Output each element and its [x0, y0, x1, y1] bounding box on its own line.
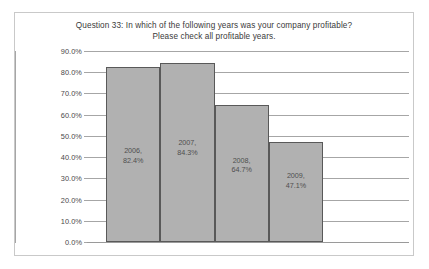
bar-label-2006: 2006, 82.4% — [107, 146, 159, 165]
bar-label-2007-category: 2007, — [161, 138, 213, 148]
chart-figure: Question 33: In which of the following y… — [0, 0, 429, 269]
y-axis-label-10: 10.0% — [61, 216, 82, 225]
y-axis-line — [15, 51, 16, 243]
y-tick-40 — [84, 157, 87, 158]
y-axis-label-0: 0.0% — [65, 238, 82, 247]
bar-label-2008-category: 2008, — [216, 156, 268, 166]
y-axis-label-90: 90.0% — [61, 47, 82, 56]
y-axis-label-50: 50.0% — [61, 131, 82, 140]
y-tick-0 — [84, 242, 87, 243]
y-tick-60 — [84, 115, 87, 116]
gridline-0: 0.0% — [87, 242, 409, 243]
bar-label-2009-category: 2009, — [270, 171, 322, 181]
y-tick-80 — [84, 72, 87, 73]
y-tick-50 — [84, 136, 87, 137]
y-axis-label-80: 80.0% — [61, 68, 82, 77]
y-axis-label-60: 60.0% — [61, 110, 82, 119]
bar-label-2006-category: 2006, — [107, 146, 159, 156]
chart-frame: Question 33: In which of the following y… — [14, 12, 414, 256]
y-tick-30 — [84, 178, 87, 179]
y-tick-90 — [84, 51, 87, 52]
y-tick-70 — [84, 93, 87, 94]
y-tick-10 — [84, 221, 87, 222]
y-axis-label-40: 40.0% — [61, 153, 82, 162]
bar-2007[interactable]: 2007, 84.3% — [160, 63, 214, 242]
bar-label-2009-value: 47.1% — [270, 181, 322, 191]
y-axis-label-20: 20.0% — [61, 195, 82, 204]
bar-2009[interactable]: 2009, 47.1% — [269, 142, 323, 242]
bars-layer: 2006, 82.4% 2007, 84.3% 2008, 64.7% — [106, 51, 323, 242]
y-axis-label-70: 70.0% — [61, 89, 82, 98]
bar-label-2007-value: 84.3% — [161, 148, 213, 158]
plot-area: 90.0% 80.0% 70.0% 60.0% 50.0% 40.0% — [87, 51, 409, 242]
bar-label-2008-value: 64.7% — [216, 165, 268, 175]
chart-title: Question 33: In which of the following y… — [15, 20, 413, 42]
bar-2008[interactable]: 2008, 64.7% — [215, 105, 269, 242]
bar-label-2009: 2009, 47.1% — [270, 171, 322, 190]
y-tick-20 — [84, 200, 87, 201]
chart-title-line-1: Question 33: In which of the following y… — [15, 20, 413, 31]
chart-title-line-2: Please check all profitable years. — [15, 31, 413, 42]
y-axis-label-30: 30.0% — [61, 174, 82, 183]
bar-label-2006-value: 82.4% — [107, 156, 159, 166]
bar-2006[interactable]: 2006, 82.4% — [106, 67, 160, 242]
bar-label-2007: 2007, 84.3% — [161, 138, 213, 157]
bar-label-2008: 2008, 64.7% — [216, 156, 268, 175]
